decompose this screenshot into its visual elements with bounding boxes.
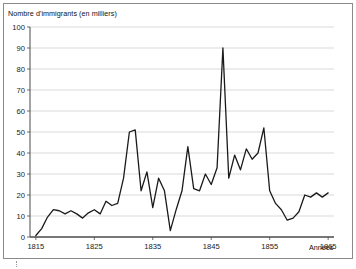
y-axis-tick-label: 70	[17, 86, 25, 95]
y-axis-tick-label: 30	[17, 170, 25, 179]
y-axis-tick-label: 90	[17, 44, 25, 53]
y-axis-tick-label: 100	[12, 23, 25, 32]
x-axis-tick-label: 1825	[86, 242, 103, 251]
chart-figure: Nombre d'immigrants (en milliers) 010203…	[0, 0, 356, 269]
chart-plot: 0102030405060708090100 18151825183518451…	[0, 0, 356, 269]
x-axis-tick-labels: 181518251835184518551865	[27, 237, 336, 251]
y-axis-tick-label: 60	[17, 107, 25, 116]
y-axis-tick-label: 10	[17, 212, 25, 221]
y-axis-tick-label: 80	[17, 65, 25, 74]
y-axis-tick-labels: 0102030405060708090100	[12, 23, 30, 242]
y-axis-tick-label: 50	[17, 128, 25, 137]
x-axis-tick-label: 1835	[144, 242, 161, 251]
gridlines-group	[30, 27, 334, 237]
x-axis-title: Années	[309, 243, 334, 252]
x-axis-tick-label: 1815	[27, 242, 44, 251]
y-axis-tick-label: 20	[17, 191, 25, 200]
x-axis-tick-label: 1845	[203, 242, 220, 251]
x-axis-tick-label: 1855	[261, 242, 278, 251]
immigration-series-line	[36, 48, 328, 236]
y-axis-tick-label: 0	[21, 233, 25, 242]
y-axis-tick-label: 40	[17, 149, 25, 158]
crop-mark	[16, 261, 18, 267]
